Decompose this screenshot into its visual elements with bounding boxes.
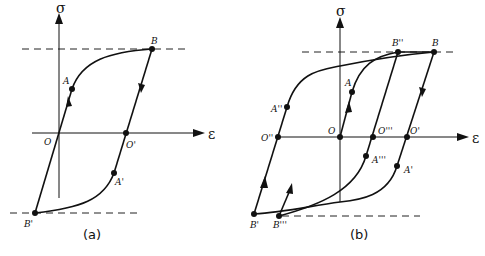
point-b-double-prime	[395, 49, 401, 55]
direction-arrow-up-icon	[286, 183, 293, 194]
point-o-prime	[123, 130, 129, 136]
point-b	[149, 46, 155, 52]
label-b-triple-prime: B'''	[272, 220, 287, 230]
reloading-arrow-b-triple-prime	[279, 190, 290, 216]
point-a	[349, 89, 355, 95]
unloading-line-b-to-aprime	[397, 52, 434, 166]
hysteresis-figure: σ ε B A O O' A' B' (a) σ ε	[0, 0, 485, 256]
label-o-triple-prime: O'''	[378, 126, 393, 136]
yield-curve-a-to-b	[72, 49, 152, 89]
label-a: A	[344, 78, 352, 88]
label-b: B	[431, 38, 439, 48]
label-o-prime: O'	[410, 126, 420, 136]
point-o	[337, 134, 343, 140]
label-o: O	[328, 126, 336, 136]
point-o-triple-prime	[370, 134, 376, 140]
caption-a: (a)	[83, 227, 101, 242]
label-a-prime: A'	[403, 165, 413, 175]
epsilon-axis-arrow-icon	[457, 133, 469, 141]
reloading-line-bprime-to-a-double-prime	[254, 107, 287, 214]
point-o-double-prime	[275, 134, 281, 140]
point-a-double-prime	[284, 104, 290, 110]
epsilon-label: ε	[472, 130, 479, 146]
caption-b: (b)	[350, 227, 368, 242]
epsilon-label: ε	[208, 126, 215, 142]
curve-aprime-to-bprime	[254, 166, 397, 214]
panel-a: σ ε B A O O' A' B' (a)	[10, 0, 215, 242]
point-b-triple-prime	[276, 213, 282, 219]
point-b	[431, 49, 437, 55]
label-o: O	[44, 137, 52, 147]
label-b-double-prime: B''	[391, 38, 404, 48]
sigma-label: σ	[56, 0, 66, 16]
label-o-double-prime: O''	[261, 133, 273, 143]
point-b-prime	[251, 211, 257, 217]
point-a-prime	[111, 170, 117, 176]
label-b-prime: B'	[23, 219, 33, 229]
label-b-prime: B'	[249, 220, 259, 230]
label-a-triple-prime: A'''	[371, 155, 386, 165]
label-a-double-prime: A''	[270, 104, 282, 114]
label-a: A	[62, 76, 70, 86]
point-a	[69, 86, 75, 92]
yield-curve-aprime-to-bprime	[35, 173, 114, 213]
loading-line-o-to-a	[340, 92, 352, 137]
direction-arrow-up-icon	[260, 176, 268, 188]
point-b-prime	[32, 210, 38, 216]
curve-a-double-prime-to-b	[287, 52, 434, 107]
loading-line-bprime-to-a	[35, 89, 72, 213]
unloading-line-b-double-prime-to-a-triple-prime	[366, 52, 398, 156]
panel-b: σ ε B'' B A A''	[249, 3, 479, 242]
label-b: B	[150, 36, 158, 46]
unloading-line-b-to-aprime	[114, 49, 152, 173]
epsilon-axis-arrow-icon	[193, 129, 205, 137]
label-o-prime: O'	[126, 140, 136, 150]
sigma-label: σ	[336, 3, 346, 19]
point-a-prime	[394, 163, 400, 169]
direction-arrow-up-icon	[345, 101, 352, 113]
label-a-prime: A'	[114, 177, 124, 187]
point-a-triple-prime	[363, 153, 369, 159]
